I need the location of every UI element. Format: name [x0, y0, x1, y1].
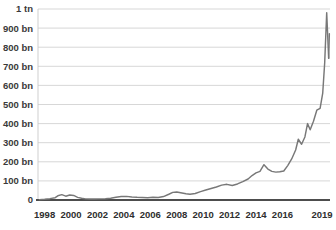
- x-tick-label-1998: 1998: [34, 209, 55, 220]
- y-tick-label-100: 100 bn: [3, 175, 33, 186]
- y-tick-label-800: 800 bn: [3, 42, 33, 53]
- y-tick-label-400: 400 bn: [3, 118, 33, 129]
- x-tick-label-2019: 2019: [312, 209, 333, 220]
- y-axis-tick-labels: 0100 bn200 bn300 bn400 bn500 bn600 bn700…: [3, 3, 33, 205]
- y-tick-label-200: 200 bn: [3, 156, 33, 167]
- x-tick-label-2000: 2000: [60, 209, 81, 220]
- x-tick-label-2014: 2014: [245, 209, 267, 220]
- line-chart: 0100 bn200 bn300 bn400 bn500 bn600 bn700…: [0, 0, 336, 230]
- x-axis-tick-labels: 1998200020022004200620082010201220142016…: [34, 209, 333, 220]
- chart-container: 0100 bn200 bn300 bn400 bn500 bn600 bn700…: [0, 0, 336, 230]
- y-tick-label-300: 300 bn: [3, 137, 33, 148]
- x-tick-label-2010: 2010: [193, 209, 214, 220]
- series-line-path: [39, 13, 328, 200]
- gridlines: [38, 9, 330, 181]
- x-tick-label-2008: 2008: [166, 209, 187, 220]
- data-series: [39, 13, 329, 200]
- x-tick-label-2006: 2006: [140, 209, 161, 220]
- x-tick-label-2012: 2012: [219, 209, 240, 220]
- y-tick-label-500: 500 bn: [3, 99, 33, 110]
- x-tick-label-2002: 2002: [87, 209, 108, 220]
- y-tick-label-700: 700 bn: [3, 61, 33, 72]
- y-tick-label-600: 600 bn: [3, 80, 33, 91]
- y-tick-label-1000: 1 tn: [16, 3, 33, 14]
- y-tick-label-900: 900 bn: [3, 23, 33, 34]
- x-tick-label-2004: 2004: [113, 209, 135, 220]
- x-tick-label-2016: 2016: [272, 209, 293, 220]
- series-line-tail: [329, 34, 330, 58]
- y-tick-label-0: 0: [28, 194, 33, 205]
